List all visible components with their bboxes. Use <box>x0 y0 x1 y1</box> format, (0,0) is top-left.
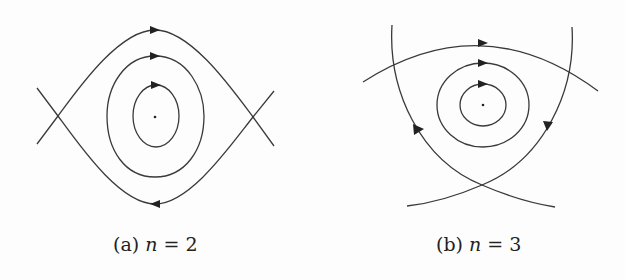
panel-b-diagram <box>363 25 598 207</box>
phase-portrait-figure: (a) n = 2 (b) n = 3 <box>0 0 625 280</box>
caption-value: 2 <box>185 233 197 255</box>
caption-label: (a) <box>113 233 139 255</box>
caption-variable: n <box>145 233 157 255</box>
caption-value: 3 <box>509 233 521 255</box>
caption-equals: = <box>487 233 503 255</box>
figure-drawing <box>0 0 625 280</box>
arrow-up-left-icon <box>413 124 424 135</box>
caption-equals: = <box>164 233 180 255</box>
arrow-left-icon <box>150 200 160 208</box>
center-point <box>154 116 157 119</box>
caption-panel-a: (a) n = 2 <box>113 233 198 255</box>
arrow-right-icon <box>151 81 161 89</box>
separatrix-right <box>407 27 572 206</box>
caption-panel-b: (b) n = 3 <box>436 233 521 255</box>
arrow-down-left-icon <box>543 121 553 131</box>
arrow-right-icon <box>150 26 160 34</box>
separatrix-left <box>392 25 555 207</box>
separatrix-upper <box>37 30 274 146</box>
caption-variable: n <box>469 233 481 255</box>
caption-label: (b) <box>436 233 463 255</box>
arrow-right-icon <box>478 80 488 88</box>
arrow-right-icon <box>150 52 160 60</box>
separatrix-lower <box>37 88 274 204</box>
center-point <box>482 104 485 107</box>
panel-a-diagram <box>37 26 274 208</box>
orbit-inner <box>133 85 179 147</box>
arrow-right-icon <box>478 59 488 67</box>
